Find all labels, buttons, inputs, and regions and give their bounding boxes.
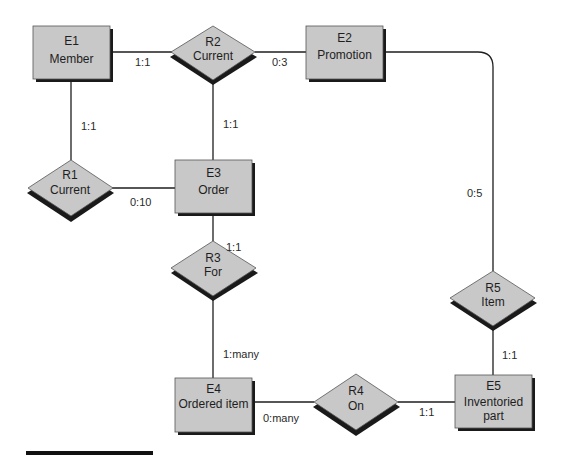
relationship-name: Current (193, 49, 234, 63)
cardinality-r2-e3: 1:1 (223, 118, 238, 130)
entity-name: Order (198, 183, 229, 197)
cardinality-e2-r5: 0:5 (467, 187, 482, 199)
entity-id: E5 (486, 379, 501, 393)
entity-e1-member[interactable]: E1 Member (33, 26, 113, 82)
relationship-r3-for[interactable]: R3 For (171, 241, 258, 301)
connectors (71, 52, 493, 402)
relationship-id: R1 (62, 168, 78, 182)
cardinality-r5-e5: 1:1 (502, 349, 517, 361)
relationship-r1-current[interactable]: R1 Current (27, 160, 114, 222)
entity-e3-order[interactable]: E3 Order (175, 160, 255, 216)
entity-e4-ordered-item[interactable]: E4 Ordered item (175, 378, 255, 435)
entity-name: Promotion (317, 48, 372, 62)
relationship-name: Item (481, 295, 504, 309)
entity-name-line1: Inventoried (464, 395, 523, 409)
cardinality-r3-e4: 1:many (223, 348, 260, 360)
cardinality-r2-e2: 0:3 (272, 56, 287, 68)
relationship-id: R2 (205, 35, 221, 49)
entity-id: E1 (64, 34, 79, 48)
entity-name-line2: part (483, 409, 504, 423)
cardinality-e1-r2: 1:1 (135, 56, 150, 68)
relationship-name: On (348, 399, 364, 413)
relationship-r4-on[interactable]: R4 On (313, 374, 400, 436)
relationship-id: R5 (485, 281, 501, 295)
cardinality-e3-r3: 1:1 (226, 241, 241, 253)
relationship-r2-current[interactable]: R2 Current (170, 26, 257, 85)
relationship-id: R3 (205, 251, 221, 265)
cardinality-e4-r4: 0:many (263, 412, 300, 424)
relationship-name: For (204, 265, 222, 279)
entity-id: E2 (337, 31, 352, 45)
entity-e5-inventoried-part[interactable]: E5 Inventoried part (455, 375, 535, 431)
relationship-r5-item[interactable]: R5 Item (450, 271, 537, 331)
cardinality-e1-r1: 1:1 (81, 120, 96, 132)
cardinality-r1-e3: 0:10 (130, 196, 151, 208)
er-diagram: E1 Member E2 Promotion E3 Order E4 Order… (0, 0, 562, 455)
line-e2-r5 (383, 52, 493, 271)
cardinality-r4-e5: 1:1 (419, 406, 434, 418)
entity-e2-promotion[interactable]: E2 Promotion (306, 26, 386, 82)
entity-name: Ordered item (178, 397, 248, 411)
entity-name: Member (49, 52, 93, 66)
cardinality-labels: 1:1 0:3 1:1 1:1 0:10 0:5 1:1 1:many 1:1 … (81, 56, 517, 424)
decorative-bar (26, 451, 153, 455)
relationship-name: Current (50, 183, 91, 197)
entity-id: E3 (206, 166, 221, 180)
relationship-id: R4 (348, 384, 364, 398)
entity-id: E4 (206, 382, 221, 396)
